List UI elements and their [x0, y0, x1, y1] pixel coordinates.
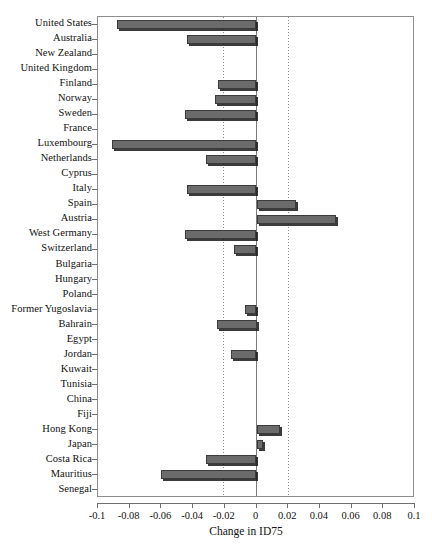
- bar: [185, 230, 256, 239]
- category-label: Switzerland: [41, 243, 92, 254]
- category-label: Former Yugoslavia: [11, 304, 92, 315]
- reference-line-zero: [256, 17, 257, 496]
- value-tick: [414, 503, 415, 508]
- bar: [112, 140, 256, 149]
- value-tick: [319, 503, 320, 508]
- category-label: China: [67, 394, 92, 405]
- category-label: New Zealand: [35, 48, 92, 59]
- bar: [218, 80, 256, 89]
- bar: [257, 425, 281, 434]
- x-axis-title-label: Change in ID75: [209, 525, 282, 537]
- category-label: Kuwait: [61, 364, 92, 375]
- bar: [185, 110, 256, 119]
- bar: [257, 215, 336, 224]
- category-label: Bulgaria: [55, 259, 92, 270]
- category-label: Fiji: [77, 409, 92, 420]
- category-label: Cyprus: [61, 168, 92, 179]
- bar: [206, 455, 257, 464]
- bar: [231, 350, 256, 359]
- bar: [206, 155, 257, 164]
- bar: [217, 320, 257, 329]
- category-label: Australia: [53, 33, 92, 44]
- value-tick: [287, 503, 288, 508]
- bar: [187, 185, 257, 194]
- category-label: Hong Kong: [42, 424, 92, 435]
- category-label: Netherlands: [41, 153, 92, 164]
- bar: [187, 35, 257, 44]
- category-label: United States: [35, 18, 92, 29]
- category-axis: United StatesAustraliaNew ZealandUnited …: [0, 16, 92, 497]
- category-label: United Kingdom: [20, 63, 92, 74]
- value-tick: [129, 503, 130, 508]
- category-label: Mauritius: [51, 469, 92, 480]
- category-label: Sweden: [58, 108, 92, 119]
- change-in-id75-bar-chart: United StatesAustraliaNew ZealandUnited …: [0, 0, 432, 550]
- category-label: Norway: [58, 93, 92, 104]
- category-label: Costa Rica: [46, 454, 92, 465]
- category-label: Hungary: [55, 274, 92, 285]
- value-tick: [351, 503, 352, 508]
- category-label: France: [63, 123, 92, 134]
- bar: [257, 200, 297, 209]
- bar: [215, 95, 256, 104]
- value-tick: [160, 503, 161, 508]
- category-label: Tunisia: [61, 379, 92, 390]
- category-label: Japan: [68, 439, 92, 450]
- x-axis-title: Change in ID75: [0, 525, 432, 537]
- reference-line-neg-002: [223, 17, 224, 496]
- category-label: Poland: [63, 289, 92, 300]
- bar: [245, 305, 256, 314]
- value-tick: [256, 503, 257, 508]
- value-tick: [192, 503, 193, 508]
- category-label: Jordan: [64, 349, 92, 360]
- reference-line-pos-002: [288, 17, 289, 496]
- category-label: Egypt: [67, 334, 92, 345]
- value-tick: [97, 503, 98, 508]
- category-label: Bahrain: [58, 319, 92, 330]
- bar: [257, 440, 263, 449]
- category-label: Italy: [73, 183, 93, 194]
- category-label: Austria: [61, 213, 92, 224]
- category-label: Luxembourg: [37, 138, 92, 149]
- plot-area: [97, 16, 414, 497]
- category-label: Finland: [60, 78, 92, 89]
- bar: [117, 20, 256, 29]
- category-label: Senegal: [58, 484, 92, 495]
- category-label: Spain: [68, 198, 92, 209]
- value-tick: [382, 503, 383, 508]
- category-label: West Germany: [29, 228, 92, 239]
- value-tick: [224, 503, 225, 508]
- bar: [161, 470, 256, 479]
- value-tick-label: 0.1: [392, 510, 432, 521]
- bar: [234, 245, 256, 254]
